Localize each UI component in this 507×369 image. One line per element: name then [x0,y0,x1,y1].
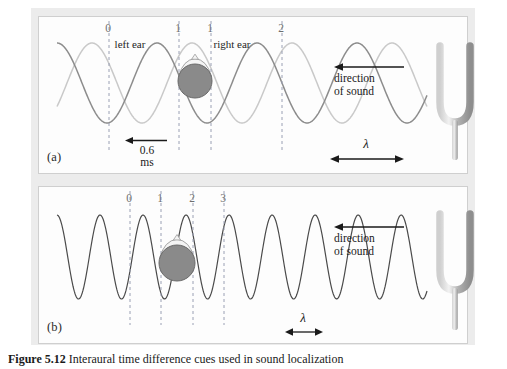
panel-a-tick-0: 0 [105,22,111,34]
panel-a-tick-1: 1 [175,22,181,34]
wavelength-arrow-icon-b [285,327,323,337]
caption-text: Interaural time difference cues used in … [69,352,344,366]
panel-b-tick-0: 0 [126,192,132,204]
panel-a-waveform [39,17,468,174]
panel-a-id-label: (a) [47,150,61,165]
panel-a [38,16,468,174]
panel-a-tick-2: 1 [207,22,213,34]
right-ear-label: right ear [214,38,251,50]
panel-b-tick-2: 2 [189,192,195,204]
panel-b-tick-3: 3 [220,192,226,204]
panel-a-tick-3: 2 [278,22,284,34]
left-ear-label: left ear [115,38,146,50]
panel-b [38,186,468,344]
panel-b-tick-1: 1 [157,192,163,204]
delay-value: 0.6 [140,144,154,156]
direction-arrow-icon-b [334,222,406,232]
tuning-fork-icon-a [432,40,478,162]
tuning-fork-icon-b [432,208,478,332]
wavelength-label-a: λ [363,136,369,152]
direction-arrow-icon-a [334,62,406,72]
direction-line2-b: of sound [334,245,374,257]
delay-unit: ms [140,156,153,168]
direction-of-sound-label-b: direction of sound [334,232,375,258]
delay-time-label: 0.6 ms [140,144,154,168]
figure-caption: Figure 5.12 Interaural time difference c… [8,352,503,368]
panel-b-id-label: (b) [47,320,62,335]
caption-label: Figure 5.12 [8,352,66,366]
panel-b-waveform [39,187,468,344]
wavelength-arrow-icon-a [330,154,404,164]
direction-line2-a: of sound [334,85,374,97]
direction-line1-b: direction [334,232,375,244]
direction-line1-a: direction [334,72,375,84]
wavelength-label-b: λ [300,310,306,326]
direction-of-sound-label-a: direction of sound [334,72,375,98]
figure-root: (a) 0 1 1 2 left ear right ear direction… [0,0,507,369]
